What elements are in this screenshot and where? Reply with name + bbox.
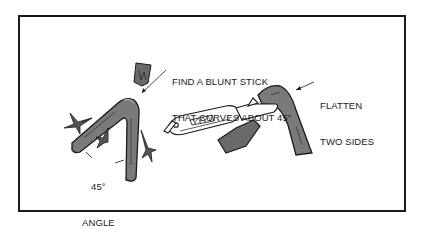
- label-find-stick-line1: FIND A BLUNT STICK: [172, 76, 292, 88]
- label-flatten-line2: TWO SIDES: [320, 136, 374, 148]
- label-find-stick-line2: THAT CURVES ABOUT 45°: [172, 112, 292, 124]
- label-flatten: FLATTEN TWO SIDES: [320, 76, 374, 160]
- label-flatten-line1: FLATTEN: [320, 100, 374, 112]
- arrow-angle-right: [115, 160, 124, 163]
- label-angle-line1: 45°: [82, 181, 115, 193]
- label-angle: 45° ANGLE: [82, 157, 115, 230]
- label-angle-line2: ANGLE: [82, 217, 115, 229]
- wood-chip: [134, 63, 151, 86]
- label-find-stick: FIND A BLUNT STICK THAT CURVES ABOUT 45°: [172, 52, 292, 136]
